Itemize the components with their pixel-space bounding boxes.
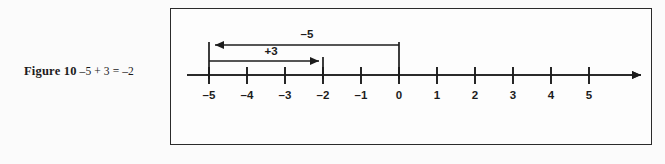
tick-label-pos4: 4 — [548, 89, 555, 101]
figure-frame: –5 –4 –3 –2 –1 0 1 2 3 4 5 –5 — [170, 8, 652, 145]
tick-label-neg3: –3 — [279, 89, 292, 101]
number-line-diagram: –5 –4 –3 –2 –1 0 1 2 3 4 5 –5 — [171, 9, 653, 146]
jump-arrow-first-term: –5 — [215, 28, 399, 45]
jump-arrow-second-term: +3 — [209, 45, 319, 61]
figure-equation: –5 + 3 = –2 — [80, 65, 134, 77]
tick-label-pos1: 1 — [434, 89, 441, 101]
figure-caption: Figure 10–5 + 3 = –2 — [24, 64, 134, 79]
tick-label-pos3: 3 — [510, 89, 516, 101]
axis-tick-labels: –5 –4 –3 –2 –1 0 1 2 3 4 5 — [203, 89, 593, 101]
tick-label-neg1: –1 — [355, 89, 368, 101]
tick-label-pos5: 5 — [586, 89, 593, 101]
tick-label-neg2: –2 — [317, 89, 330, 101]
jump-label-first-term: –5 — [301, 28, 314, 40]
jump-label-second-term: +3 — [264, 45, 277, 57]
tick-label-pos2: 2 — [472, 89, 478, 101]
tick-label-neg4: –4 — [241, 89, 254, 101]
figure-number-label: Figure 10 — [24, 64, 77, 78]
tick-label-neg5: –5 — [203, 89, 216, 101]
figure-page: Figure 10–5 + 3 = –2 — [0, 0, 665, 164]
tick-label-zero: 0 — [396, 89, 402, 101]
